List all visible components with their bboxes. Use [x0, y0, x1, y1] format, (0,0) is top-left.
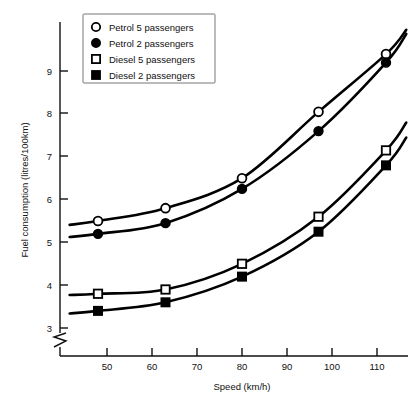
series-3: [70, 138, 407, 316]
y-tick-label-6: 6: [47, 194, 52, 205]
data-point: [161, 298, 169, 306]
legend-marker-open-circle-icon: [92, 23, 100, 31]
x-tick-label-50: 50: [102, 361, 113, 372]
legend-label-3: Diesel 2 passengers: [109, 70, 195, 81]
data-point: [382, 58, 391, 67]
y-tick-label-3: 3: [47, 323, 52, 334]
x-tick-label-60: 60: [147, 361, 158, 372]
data-point: [314, 228, 322, 236]
y-tick-label-5: 5: [47, 237, 52, 248]
chart-canvas: 9 8 7 6 5 4 3 50 60 70 80 90 100 110 Spe…: [0, 0, 418, 406]
data-point: [314, 127, 323, 136]
data-point: [94, 290, 102, 298]
y-tick-label-4: 4: [47, 280, 52, 291]
data-point: [314, 107, 323, 116]
data-point: [238, 260, 246, 268]
series-line-2: [70, 123, 407, 296]
legend-marker-filled-square-icon: [92, 71, 100, 79]
legend-marker-filled-circle-icon: [92, 39, 100, 47]
x-tick-label-90: 90: [282, 361, 293, 372]
legend-label-2: Diesel 5 passengers: [109, 54, 195, 65]
data-point: [314, 213, 322, 221]
series-line-3: [70, 138, 407, 314]
legend-marker-open-square-icon: [92, 55, 100, 63]
data-point: [238, 174, 247, 183]
fuel-consumption-chart: 9 8 7 6 5 4 3 50 60 70 80 90 100 110 Spe…: [0, 0, 418, 406]
y-tick-label-9: 9: [47, 66, 52, 77]
legend: Petrol 5 passengers Petrol 2 passengers …: [83, 14, 215, 83]
y-axis-break-icon: [54, 333, 66, 347]
x-tick-label-110: 110: [369, 361, 384, 372]
x-axis-title: Speed (km/h): [213, 381, 270, 392]
data-point: [94, 229, 103, 238]
legend-label-1: Petrol 2 passengers: [109, 38, 194, 49]
data-point: [94, 217, 103, 226]
legend-label-0: Petrol 5 passengers: [109, 22, 194, 33]
y-tick-label-8: 8: [47, 108, 52, 119]
x-tick-group: 50 60 70 80 90 100 110: [102, 348, 385, 372]
data-point: [382, 161, 390, 169]
data-point: [238, 272, 246, 280]
x-tick-label-100: 100: [324, 361, 340, 372]
data-point: [161, 219, 170, 228]
data-point: [238, 185, 247, 194]
x-tick-label-70: 70: [192, 361, 203, 372]
y-tick-label-7: 7: [47, 151, 52, 162]
data-point: [161, 285, 169, 293]
data-point: [382, 146, 390, 154]
data-point: [161, 204, 170, 213]
y-tick-group: 9 8 7 6 5 4 3: [47, 66, 68, 334]
data-point: [94, 307, 102, 315]
x-tick-label-80: 80: [237, 361, 248, 372]
y-axis-title: Fuel consumption (litres/100km): [19, 122, 30, 257]
